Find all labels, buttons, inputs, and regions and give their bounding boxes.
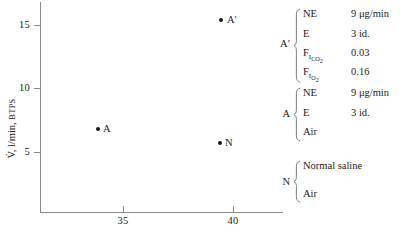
legend-row: NE 9 μg/min	[303, 87, 406, 107]
brace-a	[293, 87, 301, 143]
legend-row-name: Air	[303, 126, 317, 137]
legend-row-value: 0.16	[351, 66, 369, 77]
brace-a-prime	[293, 8, 301, 84]
legend-rows-a-prime: NE 9 μg/min E 3 id. FICO2 0.03 FIO2 0.16	[303, 8, 406, 84]
legend-row: FICO2 0.03	[303, 47, 406, 66]
legend-row-name: Normal saline	[303, 160, 362, 171]
legend: A′ NE 9 μg/min E 3 id. FICO2 0.03	[276, 0, 406, 238]
data-point-a-prime	[219, 18, 223, 22]
legend-row-name: NE	[303, 8, 317, 19]
data-point-n	[218, 141, 222, 145]
legend-row-value: 0.03	[351, 47, 369, 58]
legend-group-key-a-prime: A′	[276, 38, 290, 49]
legend-row: NE 9 μg/min	[303, 8, 406, 28]
y-tick-5	[34, 152, 40, 153]
legend-row-name: E	[303, 28, 309, 39]
legend-row: E 3 id.	[303, 107, 406, 126]
data-point-label-n: N	[225, 137, 233, 148]
legend-row-value: 3 id.	[351, 28, 370, 39]
data-point-label-a: A	[103, 123, 111, 134]
legend-group-key-n: N	[276, 176, 290, 187]
y-tick-label-5: 5	[0, 147, 30, 158]
x-tick-40	[233, 206, 234, 212]
data-point-label-a-prime: A′	[227, 14, 237, 25]
y-axis-title-units: BTPS	[8, 98, 17, 119]
legend-row: FIO2 0.16	[303, 66, 406, 84]
y-axis-line	[40, 2, 41, 213]
legend-row: Air	[303, 188, 406, 204]
y-tick-label-10: 10	[0, 83, 30, 94]
legend-row-name: E	[303, 107, 309, 118]
legend-row-value: 9 μg/min	[351, 8, 389, 19]
y-tick-15	[34, 25, 40, 26]
x-tick-35	[123, 206, 124, 212]
legend-row-name: Air	[303, 188, 317, 199]
legend-row-name-fio2: FIO2	[303, 66, 319, 81]
legend-rows-a: NE 9 μg/min E 3 id. Air	[303, 87, 406, 143]
y-tick-10	[34, 88, 40, 89]
legend-row-value: 9 μg/min	[351, 87, 389, 98]
x-tick-label-35: 35	[108, 215, 138, 226]
y-tick-label-15: 15	[0, 20, 30, 31]
scatter-figure: V̇, l/min, BTPS 15 10 5 35 40 A′ A N A′	[0, 0, 406, 238]
legend-row: E 3 id.	[303, 28, 406, 47]
legend-row-value: 3 id.	[351, 107, 370, 118]
x-tick-label-40: 40	[218, 215, 248, 226]
legend-row: Normal saline	[303, 160, 406, 188]
data-point-a	[96, 127, 100, 131]
x-axis-line	[40, 212, 283, 213]
legend-row-name-fico2: FICO2	[303, 47, 323, 62]
legend-row-name: NE	[303, 87, 317, 98]
legend-row: Air	[303, 126, 406, 143]
legend-group-key-a: A	[276, 108, 290, 119]
brace-n	[293, 160, 301, 204]
legend-rows-n: Normal saline Air	[303, 160, 406, 204]
